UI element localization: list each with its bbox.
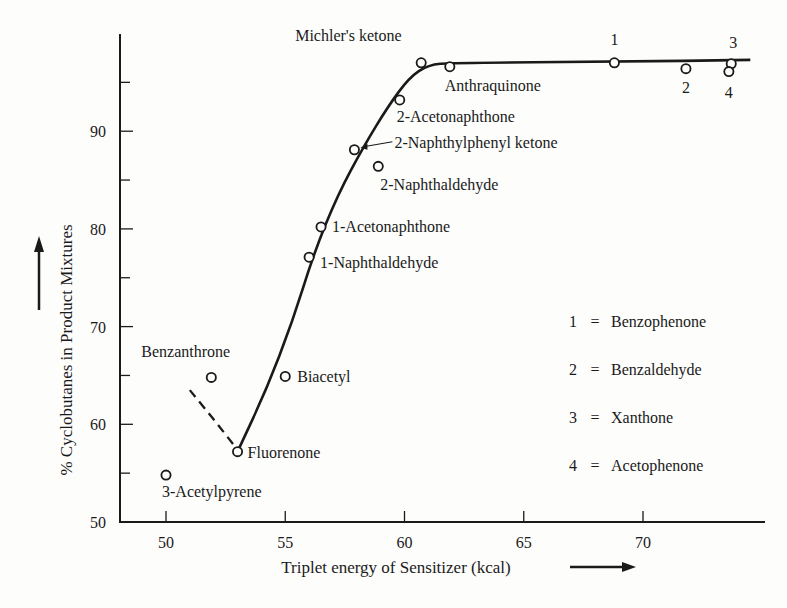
data-point-biacetyl [281, 372, 290, 381]
data-point-1-acetonaphthone [316, 222, 325, 231]
data-points: 3-AcetylpyreneBenzanthroneFluorenoneBiac… [141, 27, 737, 501]
legend-equals: = [590, 313, 599, 330]
data-point-fluorenone [233, 447, 242, 456]
data-point-1-naphthaldehyde [305, 253, 314, 262]
point-label-1: 1 [610, 31, 618, 48]
legend-equals: = [590, 361, 599, 378]
legend-key: 4 [569, 457, 577, 474]
point-label-3-acetylpyrene: 3-Acetylpyrene [162, 483, 262, 501]
data-point-4 [724, 67, 733, 76]
y-tick-label: 60 [90, 416, 106, 433]
data-point-benzanthrone [207, 373, 216, 382]
data-point-2 [681, 64, 690, 73]
x-axis-label: Triplet energy of Sensitizer (kcal) [281, 558, 510, 577]
dashed-fit-curve [190, 390, 238, 450]
point-label-benzanthrone: Benzanthrone [141, 343, 230, 360]
data-point-1 [610, 58, 619, 67]
x-tick-label: 55 [277, 534, 293, 551]
point-label-1-acetonaphthone: 1-Acetonaphthone [332, 218, 450, 236]
x-arrowhead-icon [622, 562, 636, 572]
legend-key: 3 [569, 409, 577, 426]
data-point-3-acetylpyrene [161, 471, 170, 480]
point-label-1-naphthaldehyde: 1-Naphthaldehyde [320, 254, 438, 272]
point-label-fluorenone: Fluorenone [248, 444, 321, 461]
point-label-3: 3 [729, 34, 737, 51]
point-label-michler-s-ketone: Michler's ketone [295, 27, 401, 44]
legend-entry-xanthone: Xanthone [611, 409, 673, 426]
point-label-anthraquinone: Anthraquinone [445, 77, 541, 95]
point-label-2-naphthylphenyl-ketone: 2-Naphthylphenyl ketone [394, 134, 557, 152]
y-tick-label: 50 [90, 514, 106, 531]
data-point-2-naphthylphenyl-ketone [350, 145, 359, 154]
x-tick-label: 70 [635, 534, 651, 551]
data-point-2-naphthaldehyde [374, 162, 383, 171]
y-tick-label: 90 [90, 123, 106, 140]
x-tick-label: 65 [516, 534, 532, 551]
legend-entry-benzophenone: Benzophenone [611, 313, 706, 331]
y-axis-label: % Cyclobutanes in Product Mixtures [57, 224, 76, 475]
data-point-anthraquinone [445, 62, 454, 71]
x-tick-label: 50 [158, 534, 174, 551]
y-tick-label: 70 [90, 319, 106, 336]
legend-equals: = [590, 409, 599, 426]
legend-key: 2 [569, 361, 577, 378]
point-label-2-naphthaldehyde: 2-Naphthaldehyde [380, 176, 498, 194]
legend-entry-acetophenone: Acetophenone [611, 457, 703, 475]
chart: 50607080905055606570Triplet energy of Se… [0, 0, 787, 608]
point-label-biacetyl: Biacetyl [297, 368, 351, 386]
legend-entry-benzaldehyde: Benzaldehyde [611, 361, 702, 379]
legend-equals: = [590, 457, 599, 474]
x-tick-label: 60 [397, 534, 413, 551]
legend: 1=Benzophenone2=Benzaldehyde3=Xanthone4=… [569, 313, 706, 475]
point-label-2: 2 [682, 79, 690, 96]
legend-key: 1 [569, 313, 577, 330]
y-arrowhead-icon [34, 236, 44, 252]
point-label-2-acetonaphthone: 2-Acetonaphthone [397, 108, 515, 126]
point-label-4: 4 [725, 84, 733, 101]
y-tick-label: 80 [90, 221, 106, 238]
data-point-2-acetonaphthone [395, 95, 404, 104]
data-point-michler-s-ketone [417, 58, 426, 67]
